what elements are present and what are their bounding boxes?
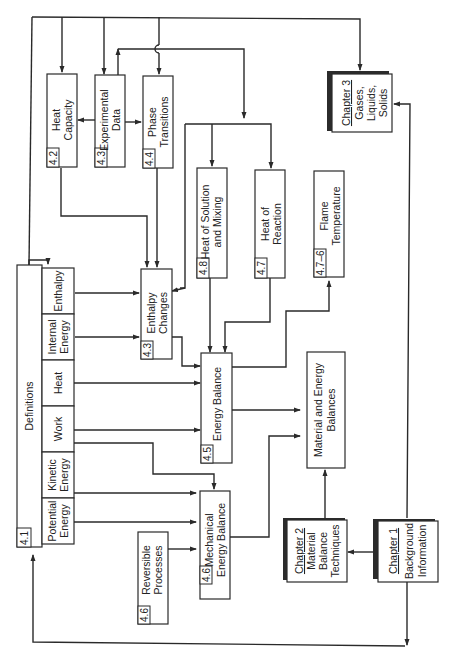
heat-capacity-node[interactable]: 4.2 Heat Capacity (47, 74, 77, 167)
chapter2-label3: Techniques (329, 524, 341, 577)
arrow-to-heat-of-reaction (185, 124, 271, 168)
chapter2-title: Chapter 2 (293, 528, 305, 574)
enthalpy-changes-node[interactable]: 4.3 Enthalpy Changes (141, 269, 172, 359)
chapter2-book[interactable]: Chapter 2 Material Balance Techniques (283, 518, 347, 582)
def-internal-label2: Energy (58, 320, 70, 354)
def-kinetic-label2: Energy (58, 458, 70, 492)
enthalpy-changes-label2: Changes (157, 292, 169, 334)
experimental-label: Experimental (98, 89, 110, 150)
flame-label2: Temperature (330, 186, 342, 245)
section-label: 4.4 (144, 152, 155, 166)
energy-balance-node[interactable]: 4.5 Energy Balance (201, 353, 232, 463)
arrow-to-chapter3 (32, 17, 360, 70)
def-potential-label2: Energy (58, 504, 70, 538)
experimental-data-node[interactable]: 4.3 Experimental Data (95, 75, 125, 167)
heat-of-solution-label2: and Mixing (211, 196, 223, 247)
mechanical-energy-balance-node[interactable]: 4.6 Mechanical Energy Balance (200, 491, 230, 599)
chapter3-label3: Solids (377, 89, 389, 118)
chapter1-book[interactable]: Chapter 1 Background Information (373, 519, 438, 582)
reversible-processes-node[interactable]: 4.6 Reversible Processes (138, 532, 168, 624)
material-energy-label: Material and Energy (312, 362, 324, 457)
chapter3-label1: Gases, (353, 86, 365, 119)
chapter2-label2: Balance (317, 532, 329, 570)
arrow-reaction-to-energy-balance (225, 278, 270, 352)
section-label: 4.3 (96, 151, 107, 165)
material-energy-label2: Balances (325, 388, 337, 431)
experimental-label2: Data (110, 109, 122, 131)
chapter1-label1: Background (403, 523, 415, 579)
definitions-group[interactable]: 4.1 Definitions Enthalpy Internal Energy… (17, 265, 74, 547)
material-energy-balances-node[interactable]: Material and Energy Balances (307, 352, 345, 468)
section-label: 4.1 (19, 531, 30, 545)
phase-label2: Transitions (158, 97, 170, 148)
def-kinetic-label: Kinetic (46, 459, 58, 491)
chapter1-title: Chapter 1 (387, 528, 399, 574)
arrow-heat-capacity-to-enthalpy-changes (61, 168, 147, 267)
line-to-heat-branch (118, 49, 244, 118)
left-frame-line (29, 17, 32, 265)
arrow-to-enthalpy-def (29, 260, 48, 265)
definitions-label: Definitions (23, 381, 35, 430)
arrow-chapter1-to-chapter3 (394, 104, 410, 518)
heat-of-solution-label: Heat of Solution (199, 184, 211, 259)
chapter1-label2: Information (416, 525, 428, 578)
energy-balance-label: Energy Balance (211, 367, 223, 441)
flame-label: Flame (318, 201, 330, 230)
line-to-enthalpy-changes-right (180, 124, 185, 288)
reversible-label: Reversible (140, 545, 152, 595)
arrow-enthalpy-changes-to-energy-balance (172, 337, 200, 366)
def-potential-label: Potential (46, 501, 58, 542)
heat-of-reaction-node[interactable]: 4.7 Heat of Reaction (255, 170, 285, 278)
section-label: 4.7–6 (315, 250, 326, 275)
def-work-label: Work (52, 416, 64, 441)
mechanical-label: Mechanical (203, 513, 215, 566)
flow-diagram: 4.1 Definitions Enthalpy Internal Energy… (0, 0, 454, 660)
def-enthalpy-label: Enthalpy (52, 270, 64, 312)
chapter3-label2: Liquids, (365, 85, 377, 121)
section-label: 4.2 (48, 151, 59, 165)
heat-capacity-label2: Capacity (62, 99, 74, 141)
heat-of-reaction-label: Heat of (259, 207, 271, 241)
section-label: 4.6 (139, 608, 150, 622)
heat-of-reaction-label2: Reaction (271, 203, 283, 245)
section-label: 4.8 (198, 261, 209, 275)
mechanical-label2: Energy Balance (215, 503, 227, 577)
arrow-work-to-mechanical (73, 443, 214, 489)
arrow-into-enthalpy-changes (172, 288, 185, 291)
chapter3-title: Chapter 3 (340, 80, 352, 126)
section-label: 4.3 (142, 343, 153, 357)
flame-temperature-node[interactable]: 4.7–6 Flame Temperature (314, 171, 344, 277)
chapter2-label1: Material (305, 532, 317, 569)
enthalpy-changes-label: Enthalpy (145, 292, 157, 334)
chapter3-book[interactable]: Chapter 3 Gases, Liquids, Solids (327, 71, 392, 132)
reversible-label2: Processes (152, 545, 164, 594)
def-heat-label: Heat (52, 372, 64, 394)
section-label: 4.6 (201, 568, 212, 582)
phase-transitions-node[interactable]: 4.4 Phase Transitions (143, 76, 173, 168)
section-label: 4.5 (202, 447, 213, 461)
section-label: 4.7 (256, 261, 267, 275)
phase-label: Phase (146, 107, 158, 137)
heat-capacity-label: Heat (50, 109, 62, 131)
heat-of-solution-node[interactable]: 4.8 Heat of Solution and Mixing (197, 168, 227, 278)
def-internal-label: Internal (46, 319, 58, 354)
